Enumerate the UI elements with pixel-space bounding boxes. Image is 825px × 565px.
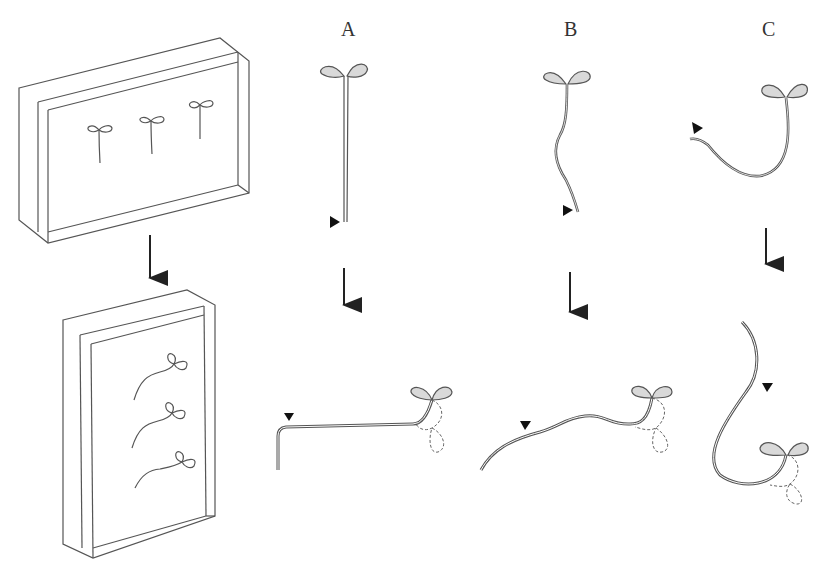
triangle-marker-icon — [762, 383, 773, 392]
seedling-c-inverted — [714, 322, 809, 504]
seedling-a-upright — [321, 64, 368, 228]
diagram-canvas — [0, 0, 825, 565]
triangle-marker-icon — [330, 216, 340, 228]
triangle-marker-icon — [284, 413, 294, 421]
triangle-marker-icon — [520, 421, 531, 430]
top-box — [19, 38, 249, 243]
seedling-b-wavy — [544, 71, 591, 216]
triangle-marker-icon — [692, 122, 703, 134]
bottom-box-seedlings — [132, 354, 195, 488]
seedling-b-horizontal — [481, 386, 672, 470]
triangle-marker-icon — [563, 205, 573, 216]
seedling-c-hook — [690, 84, 807, 176]
top-box-seedlings — [88, 101, 213, 163]
bottom-box — [63, 290, 215, 558]
seedling-a-horizontal — [278, 387, 452, 470]
